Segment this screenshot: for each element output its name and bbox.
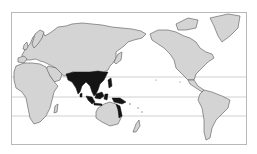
arctic-archipelago xyxy=(176,18,198,30)
north-america xyxy=(150,30,214,80)
greenland xyxy=(210,14,240,42)
new-zealand xyxy=(133,120,140,132)
highlight-java xyxy=(94,103,102,106)
world-map xyxy=(0,0,257,154)
highlight-sulawesi xyxy=(104,94,108,100)
madagascar xyxy=(54,104,58,113)
highlight-sri-lanka xyxy=(80,93,82,97)
pacific-islands xyxy=(129,79,180,112)
south-america xyxy=(198,90,230,140)
central-america xyxy=(188,80,204,92)
highlight-philippines xyxy=(108,78,112,88)
